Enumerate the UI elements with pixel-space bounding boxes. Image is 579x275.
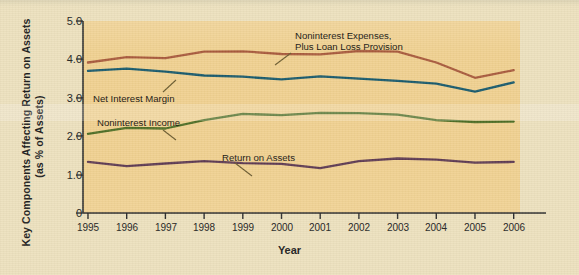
- annotation-return-on-assets: Return on Assets: [222, 152, 295, 163]
- series-line: [88, 51, 514, 78]
- annotation-noninterest-income: Noninterest Income: [97, 117, 180, 128]
- leader-line-noninterest-income: [163, 130, 176, 140]
- series-line: [88, 69, 514, 92]
- chart-svg: [0, 0, 579, 275]
- chart-page: Key Components Affecting Return on Asset…: [0, 0, 579, 275]
- y-axis-ticks: [76, 21, 83, 213]
- x-axis-ticks: [88, 213, 514, 219]
- annotation-noninterest-expenses: Noninterest Expenses, Plus Loan Loss Pro…: [295, 30, 403, 52]
- annotation-net-interest-margin: Net Interest Margin: [93, 93, 175, 104]
- leader-line-net-interest-margin: [163, 80, 176, 92]
- leader-line-return-on-assets: [235, 163, 252, 176]
- series-line: [88, 159, 514, 169]
- annotation-noninterest-expenses-line1: Noninterest Expenses,: [295, 30, 403, 41]
- data-series-layer: [88, 51, 514, 168]
- annotation-noninterest-expenses-line2: Plus Loan Loss Provision: [295, 41, 403, 52]
